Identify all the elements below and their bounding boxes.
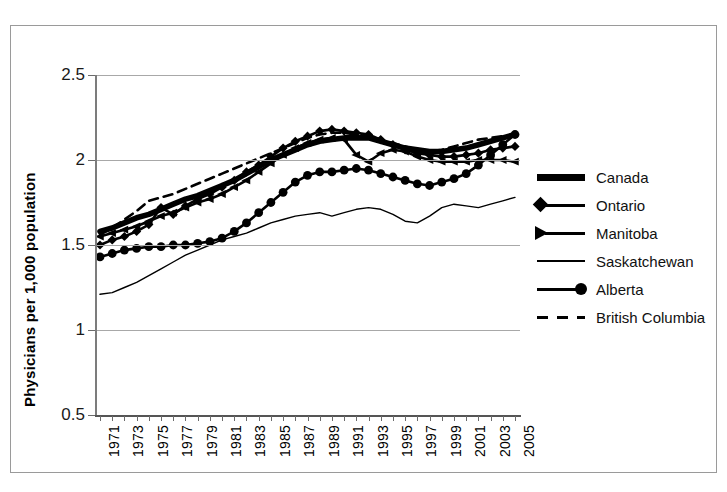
data-point-marker xyxy=(230,227,239,236)
legend: CanadaOntarioManitobaSaskatchewanAlberta… xyxy=(535,163,715,331)
line-swatch xyxy=(545,232,585,235)
x-axis-tick-mark xyxy=(344,416,345,421)
x-axis-tick-mark xyxy=(173,416,174,421)
data-point-marker xyxy=(510,142,519,151)
gridline xyxy=(95,330,520,331)
x-axis-tick-label: 1991 xyxy=(350,425,366,457)
y-axis-tick-mark xyxy=(88,160,95,161)
data-point-marker xyxy=(157,242,166,251)
x-axis-tick-mark xyxy=(295,416,296,421)
legend-label: Canada xyxy=(596,169,649,186)
data-point-marker xyxy=(144,242,153,251)
y-axis-tick-label: 1.5 xyxy=(39,236,85,253)
legend-key-thick-line-key xyxy=(535,167,587,187)
legend-key-circle-line-key xyxy=(535,279,587,299)
x-axis-tick-mark xyxy=(320,416,321,421)
x-axis-tick-label: 1985 xyxy=(277,425,293,457)
x-axis-tick-mark xyxy=(454,416,455,421)
legend-label: British Columbia xyxy=(596,309,705,326)
x-axis-tick-mark xyxy=(332,416,333,421)
data-point-marker xyxy=(425,181,434,190)
x-axis-tick-label: 1987 xyxy=(301,425,317,457)
x-axis-tick-mark xyxy=(430,416,431,421)
x-axis-tick-label: 2005 xyxy=(521,425,537,457)
y-axis-tick-mark xyxy=(88,245,95,246)
x-axis-tick-mark xyxy=(271,416,272,421)
x-axis-tick-mark xyxy=(222,416,223,421)
data-point-marker xyxy=(218,234,227,243)
x-axis-tick-mark xyxy=(198,416,199,421)
data-point-marker xyxy=(364,166,373,175)
data-point-marker xyxy=(279,188,288,197)
y-axis-tick-label: 2.5 xyxy=(39,66,85,83)
y-axis-tick-mark xyxy=(88,330,95,331)
data-point-marker xyxy=(450,174,459,183)
x-axis-tick-mark xyxy=(466,416,467,421)
legend-label: Ontario xyxy=(596,197,645,214)
data-point-marker xyxy=(328,168,337,177)
x-axis-tick-mark xyxy=(100,416,101,421)
plot-area: 1971197319751977197919811983198519871989… xyxy=(95,75,520,415)
x-axis-tick-label: 1981 xyxy=(228,425,244,457)
x-axis-tick-mark xyxy=(161,416,162,421)
legend-item-canada[interactable]: Canada xyxy=(535,163,715,191)
x-axis-tick-mark xyxy=(149,416,150,421)
data-point-marker xyxy=(498,140,507,149)
x-axis-tick-label: 1975 xyxy=(155,425,171,457)
data-point-marker xyxy=(461,158,470,166)
y-axis-line xyxy=(95,75,97,416)
x-axis-tick-mark xyxy=(417,416,418,421)
thin-line-swatch xyxy=(537,260,585,262)
legend-item-ontario[interactable]: Ontario xyxy=(535,191,715,219)
data-point-marker xyxy=(486,151,495,160)
data-point-marker xyxy=(437,178,446,187)
data-point-marker xyxy=(266,198,275,207)
x-axis-tick-mark xyxy=(381,416,382,421)
x-axis-tick-mark xyxy=(356,416,357,421)
x-axis-tick-label: 2003 xyxy=(497,425,513,457)
legend-item-british-columbia[interactable]: British Columbia xyxy=(535,303,715,331)
legend-key-arrow-line-key xyxy=(535,223,587,243)
data-point-marker xyxy=(242,219,251,228)
y-axis-tick-mark xyxy=(88,75,95,76)
x-axis-tick-label: 1999 xyxy=(448,425,464,457)
x-axis-tick-mark xyxy=(234,416,235,421)
chart-figure: Physicians per 1,000 population 0.511.52… xyxy=(0,0,727,492)
gridline xyxy=(95,75,520,76)
gridline xyxy=(95,160,520,161)
x-axis-tick-mark xyxy=(259,416,260,421)
data-point-marker xyxy=(376,169,385,178)
data-point-marker xyxy=(510,158,519,166)
x-axis-tick-mark xyxy=(283,416,284,421)
legend-key-diamond-line-key xyxy=(535,195,587,215)
data-point-marker xyxy=(462,169,471,178)
legend-label: Manitoba xyxy=(596,225,658,242)
x-axis-tick-mark xyxy=(405,416,406,421)
x-axis-tick-mark xyxy=(442,416,443,421)
data-point-marker xyxy=(108,249,117,258)
x-axis-tick-label: 1983 xyxy=(252,425,268,457)
x-axis-tick-label: 1997 xyxy=(423,425,439,457)
legend-label: Alberta xyxy=(596,281,644,298)
x-axis-tick-mark xyxy=(246,416,247,421)
circle-marker-icon xyxy=(575,283,587,295)
y-axis-tick-label: 2 xyxy=(39,151,85,168)
legend-item-manitoba[interactable]: Manitoba xyxy=(535,219,715,247)
x-axis-tick-mark xyxy=(185,416,186,421)
x-axis-tick-label: 1995 xyxy=(399,425,415,457)
data-point-marker xyxy=(352,164,361,173)
legend-item-alberta[interactable]: Alberta xyxy=(535,275,715,303)
data-point-marker xyxy=(193,239,202,248)
x-axis-tick-mark xyxy=(515,416,516,421)
x-axis-tick-mark xyxy=(503,416,504,421)
data-point-marker xyxy=(303,171,312,180)
x-axis-tick-mark xyxy=(137,416,138,421)
data-point-marker xyxy=(120,246,129,255)
y-axis-title-text: Physicians per 1,000 population xyxy=(21,172,38,407)
x-axis-tick-mark xyxy=(210,416,211,421)
y-axis-tick-label: 0.5 xyxy=(39,406,85,423)
thick-line-swatch xyxy=(537,174,585,181)
legend-item-saskatchewan[interactable]: Saskatchewan xyxy=(535,247,715,275)
legend-key-thin-line-key xyxy=(535,251,587,271)
x-axis-tick-mark xyxy=(478,416,479,421)
